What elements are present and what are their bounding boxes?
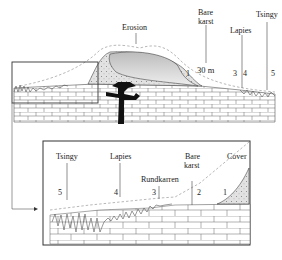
inset-zone-number-5: 5 (58, 188, 62, 197)
label-bare-karst-line2: karst (198, 17, 214, 26)
inset-label-cover: Cover (227, 152, 247, 161)
label-lapies: Lapies (230, 26, 251, 35)
scale-label: 30 m (197, 66, 214, 75)
label-bare-karst-line1: Bare (198, 8, 213, 17)
label-erosion: Erosion (122, 23, 147, 32)
zone-number-1: 1 (186, 69, 190, 78)
inset-label-bare-line2: karst (184, 161, 200, 170)
karst-evolution-diagram (0, 0, 282, 260)
arrow-head-icon (34, 207, 38, 211)
label-tsingy: Tsingy (256, 10, 278, 19)
inset-label-tsingy: Tsingy (56, 152, 78, 161)
inset-zone-number-2: 2 (197, 188, 201, 197)
inset-label-lapies: Lapies (110, 152, 131, 161)
inset-zone-number-1: 1 (223, 188, 227, 197)
zone-number-3: 3 (233, 69, 237, 78)
inset-label-bare-line1: Bare (185, 152, 200, 161)
zone-number-5: 5 (271, 69, 275, 78)
zone-number-4: 4 (243, 69, 247, 78)
inset-label-rundkarren: Rundkarren (141, 175, 179, 184)
inset-zone-number-3: 3 (152, 188, 156, 197)
inset-zone-number-4: 4 (114, 188, 118, 197)
